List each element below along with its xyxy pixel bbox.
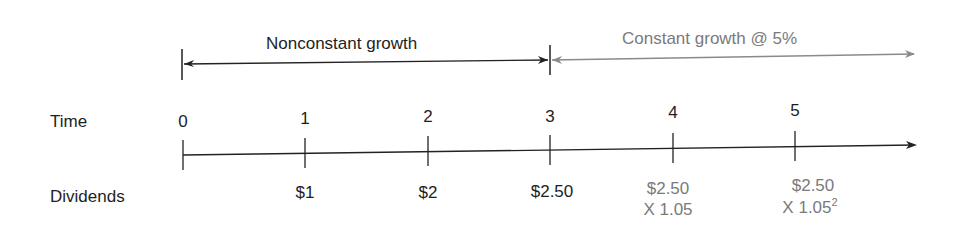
- constant-span-line: [552, 54, 914, 60]
- dividend-4: $2.50: [647, 180, 690, 197]
- period-3: 3: [545, 108, 554, 125]
- dividend-5-exponent: 2: [832, 196, 838, 208]
- constant-growth-label: Constant growth @ 5%: [622, 30, 797, 47]
- period-2: 2: [423, 108, 432, 125]
- dividend-1: $1: [296, 184, 315, 201]
- dividend-2: $2: [419, 184, 438, 201]
- dividend-5-multiplier: X 1.05: [782, 198, 831, 217]
- dividend-5-multiplier-group: X 1.052: [782, 199, 837, 216]
- period-1: 1: [300, 110, 309, 127]
- time-row-label: Time: [50, 113, 87, 130]
- dividend-4-multiplier: X 1.05: [643, 201, 692, 218]
- period-4: 4: [668, 104, 677, 121]
- period-0: 0: [178, 113, 187, 130]
- dividends-row-label: Dividends: [50, 188, 125, 205]
- time-axis-line: [183, 145, 914, 155]
- dividend-5: $2.50: [792, 177, 835, 194]
- nonconstant-span-line: [184, 60, 548, 64]
- dividend-3: $2.50: [531, 183, 574, 200]
- nonconstant-growth-label: Nonconstant growth: [266, 35, 417, 52]
- period-5: 5: [790, 102, 799, 119]
